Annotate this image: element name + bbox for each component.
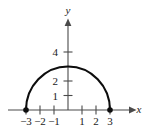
x-tick-label-2: 2: [93, 115, 99, 127]
x-axis-arrow-icon: [129, 107, 137, 114]
endpoint-dot-left: [23, 107, 29, 113]
x-tick-label-3: 3: [107, 115, 113, 127]
semicircle-graph-figure: −3 −2 −1 1 2 3 1 2 4 x y: [0, 0, 148, 138]
x-tick-label-minus-2: −2: [34, 115, 46, 127]
x-tick-label-minus-3: −3: [20, 115, 32, 127]
y-axis-arrow-icon: [65, 19, 72, 27]
y-tick-label-4: 4: [53, 46, 59, 58]
y-tick-label-1: 1: [53, 90, 59, 102]
coordinate-plot: −3 −2 −1 1 2 3 1 2 4 x y: [0, 0, 148, 138]
endpoint-dot-right: [107, 107, 113, 113]
x-axis-label: x: [136, 103, 142, 115]
y-axis-label: y: [65, 4, 71, 16]
x-tick-label-minus-1: −1: [48, 115, 60, 127]
y-tick-label-2: 2: [53, 75, 59, 87]
x-tick-label-1: 1: [79, 115, 85, 127]
